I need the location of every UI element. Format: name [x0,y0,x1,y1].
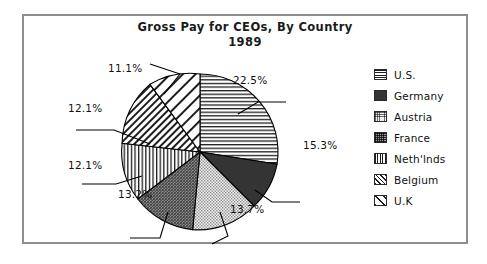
legend-label-france: France [394,132,430,144]
legend-swatch-icon-us [374,69,387,80]
legend-swatch-icon-netherlands [374,153,387,164]
slice-label-austria: 13.7% [230,203,264,215]
slice-label-france: 13.2% [118,188,152,200]
legend-swatch-icon-uk [374,195,387,206]
legend-item-us[interactable]: U.S. [374,64,466,85]
chart-subtitle: 1989 [22,35,468,49]
legend-label-netherlands: Neth'lnds [394,153,445,165]
page-title: Gross Pay for CEOs, By Country [22,20,468,34]
legend-item-belgium[interactable]: Belgium [374,169,466,190]
legend-item-austria[interactable]: Austria [374,106,466,127]
legend-swatch-icon-belgium [374,174,387,185]
slice-label-us: 22.5% [233,74,267,86]
legend-label-belgium: Belgium [394,174,438,186]
slice-label-belgium: 12.1% [68,102,102,114]
legend-label-austria: Austria [394,111,433,123]
slice-label-germany: 15.3% [303,139,337,151]
legend-swatch-icon-austria [374,111,387,122]
legend-label-uk: U.K [394,195,413,207]
slice-label-netherlands: 12.1% [68,159,102,171]
legend-item-uk[interactable]: U.K [374,190,466,211]
legend-label-germany: Germany [394,90,444,102]
legend-label-us: U.S. [394,69,416,81]
legend-item-france[interactable]: France [374,127,466,148]
legend-item-germany[interactable]: Germany [374,85,466,106]
legend: U.S. Germany Austria France Neth'lnds Be… [374,64,466,211]
slice-label-uk: 11.1% [108,62,142,74]
legend-swatch-icon-france [374,132,387,143]
chart-title-block: Gross Pay for CEOs, By Country 1989 [22,20,468,50]
legend-swatch-icon-germany [374,90,387,101]
legend-item-netherlands[interactable]: Neth'lnds [374,148,466,169]
pie-slice-us[interactable] [200,74,278,164]
chart-canvas: Gross Pay for CEOs, By Country 1989 [0,0,487,264]
